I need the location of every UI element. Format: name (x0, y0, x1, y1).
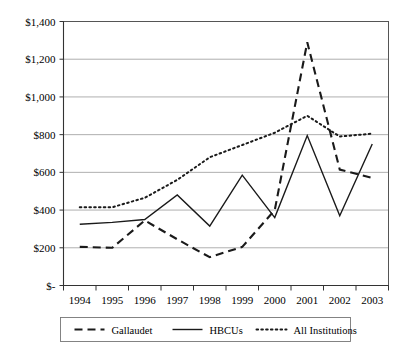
y-axis-tick-label: $400 (34, 204, 57, 216)
series-line-gallaudet (80, 42, 373, 257)
y-axis-tick-label: $1,000 (25, 91, 56, 103)
x-axis-tick-label: 2003 (361, 294, 384, 306)
gridlines-group (64, 22, 389, 286)
legend-label-hbcus: HBCUs (210, 325, 243, 336)
x-axis-tick-label: 2002 (329, 294, 351, 306)
plot-area-frame (64, 22, 389, 286)
series-line-all-institutions (80, 116, 373, 207)
x-axis-tick-label: 1998 (199, 294, 222, 306)
x-axis-tick-label: 1994 (69, 294, 92, 306)
y-axis-tick-label: $800 (34, 129, 57, 141)
y-axis-tick-label: $1,400 (25, 16, 56, 28)
legend-label-gallaudet: Gallaudet (112, 325, 153, 336)
x-axis-tick-label: 2001 (296, 294, 318, 306)
series-group (80, 42, 373, 257)
x-axis-tick-label: 2000 (264, 294, 287, 306)
line-chart: $-$200$400$600$800$1,000$1,200$1,400 199… (0, 0, 404, 352)
x-axis-tick-label: 1997 (166, 294, 189, 306)
x-axis-tick-label: 1999 (231, 294, 254, 306)
series-line-hbcus (80, 136, 373, 227)
x-axis-ticks-group: 1994199519961997199819992000200120022003 (64, 286, 389, 306)
legend-label-all-institutions: All Institutions (294, 325, 357, 336)
legend-entries-group: GallaudetHBCUsAll Institutions (75, 325, 357, 336)
y-axis-tick-label: $200 (34, 242, 57, 254)
x-axis-tick-label: 1995 (101, 294, 124, 306)
x-axis-tick-label: 1996 (134, 294, 157, 306)
chart-container: $-$200$400$600$800$1,000$1,200$1,400 199… (0, 0, 404, 352)
y-axis-tick-label: $- (46, 280, 56, 292)
y-axis-ticks-group: $-$200$400$600$800$1,000$1,200$1,400 (25, 16, 63, 292)
y-axis-tick-label: $1,200 (25, 53, 56, 65)
y-axis-tick-label: $600 (34, 166, 57, 178)
